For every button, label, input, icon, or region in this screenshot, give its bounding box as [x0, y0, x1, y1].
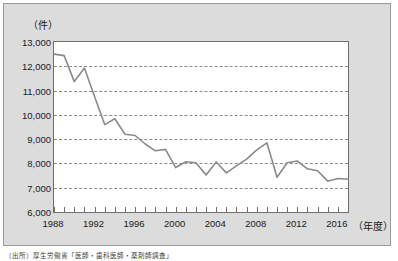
y-tick-label-10000: 10,000 [22, 109, 51, 120]
x-tick-1996 [135, 207, 136, 212]
y-tick-label-8000: 8,000 [27, 158, 51, 169]
x-tick-1991 [84, 207, 85, 212]
gridline-y-7000 [54, 188, 348, 189]
y-axis-unit-label: （件） [28, 17, 58, 32]
y-tick-label-6000: 6,000 [27, 207, 51, 218]
x-axis-tick-labels: 19881992199620002004200820122016 [53, 215, 349, 231]
x-tick-2001 [186, 207, 187, 212]
x-tick-2015 [328, 207, 329, 212]
x-tick-1993 [105, 207, 106, 212]
gridline-y-9000 [54, 139, 348, 140]
x-tick-label-2008: 2008 [245, 218, 266, 229]
x-tick-2010 [277, 207, 278, 212]
x-tick-2000 [176, 207, 177, 212]
plot-area [53, 41, 349, 213]
x-tick-2012 [297, 207, 298, 212]
x-tick-1995 [125, 207, 126, 212]
x-tick-2004 [216, 207, 217, 212]
y-tick-label-7000: 7,000 [27, 182, 51, 193]
x-tick-2008 [257, 207, 258, 212]
source-note: （出所）厚生労働省「医師・歯科医師・薬剤師調査」 [5, 250, 173, 260]
x-tick-2014 [318, 207, 319, 212]
gridline-y-8000 [54, 163, 348, 164]
x-tick-1994 [115, 207, 116, 212]
chart-figure: （件） 6,0007,0008,0009,00010,00011,00012,0… [3, 3, 391, 246]
x-tick-1997 [145, 207, 146, 212]
x-tick-label-1992: 1992 [83, 218, 104, 229]
x-tick-2017 [348, 207, 349, 212]
gridline-y-12000 [54, 66, 348, 67]
x-tick-label-2016: 2016 [326, 218, 347, 229]
y-tick-label-12000: 12,000 [22, 61, 51, 72]
gridline-y-10000 [54, 115, 348, 116]
x-tick-1989 [64, 207, 65, 212]
x-tick-2006 [236, 207, 237, 212]
x-tick-1988 [54, 207, 55, 212]
x-axis-title: （年度） [353, 218, 393, 233]
y-tick-label-9000: 9,000 [27, 134, 51, 145]
x-tick-label-2000: 2000 [164, 218, 185, 229]
gridline-y-11000 [54, 91, 348, 92]
x-tick-2005 [226, 207, 227, 212]
x-tick-label-1988: 1988 [42, 218, 63, 229]
x-tick-2016 [338, 207, 339, 212]
y-tick-label-13000: 13,000 [22, 37, 51, 48]
x-tick-2002 [196, 207, 197, 212]
x-tick-2013 [307, 207, 308, 212]
x-tick-label-2012: 2012 [286, 218, 307, 229]
y-tick-label-11000: 11,000 [23, 85, 51, 96]
x-tick-label-2004: 2004 [205, 218, 226, 229]
x-tick-1998 [155, 207, 156, 212]
series-polyline [54, 54, 348, 181]
x-tick-label-1996: 1996 [124, 218, 145, 229]
x-tick-1990 [74, 207, 75, 212]
x-tick-2003 [206, 207, 207, 212]
series-line-chart [54, 42, 348, 212]
x-tick-1992 [95, 207, 96, 212]
x-tick-2011 [287, 207, 288, 212]
x-tick-2007 [247, 207, 248, 212]
x-tick-1999 [166, 207, 167, 212]
x-tick-2009 [267, 207, 268, 212]
y-axis-tick-labels: 6,0007,0008,0009,00010,00011,00012,00013… [6, 41, 51, 213]
